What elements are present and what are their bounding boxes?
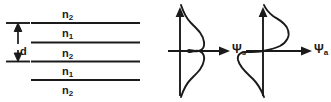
layer-label-n2-top: n2 — [62, 9, 73, 20]
dimension-label-d: d — [20, 46, 27, 57]
antisymmetric-horizontal-axis-arrowhead — [301, 47, 312, 56]
axis-label-psi-antisymmetric: Ψa — [314, 43, 328, 55]
waveguide-layer-boundaries — [31, 23, 140, 80]
layer-label-n2-bottom: n2 — [62, 85, 73, 96]
symmetric-horizontal-axis-arrowhead — [219, 47, 230, 56]
axis-label-psi-symmetric: Ψs — [232, 43, 246, 55]
layer-label-n1-upper: n1 — [62, 28, 73, 39]
figure-vector-layer — [0, 0, 331, 102]
symmetric-mode-plot — [168, 5, 230, 97]
layer-label-n2-middle: n2 — [62, 48, 73, 59]
layer-label-n1-lower: n1 — [62, 66, 73, 77]
antisymmetric-mode-plot — [238, 5, 312, 97]
physics-figure-coupled-waveguide-modes: n2 n1 n2 n1 n2 d Ψs Ψa — [0, 0, 331, 102]
dimension-arrowhead-up — [14, 23, 22, 32]
